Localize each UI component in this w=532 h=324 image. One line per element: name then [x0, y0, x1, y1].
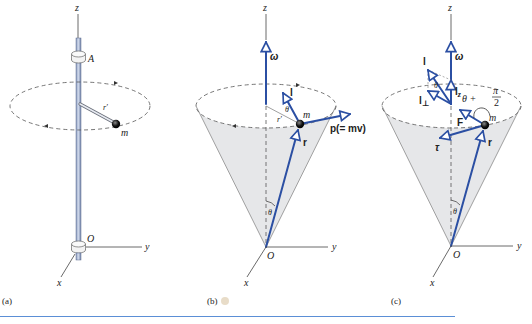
bearing-o — [72, 241, 86, 260]
z-axis-label: z — [447, 2, 452, 13]
panel-c: z ω lz l l⊥ θ F θ + π 2 m τ — [382, 2, 522, 306]
l-z-label: lz — [455, 86, 462, 99]
origin-label: O — [267, 250, 274, 261]
angle-theta-label: θ + — [462, 93, 476, 104]
radial-arm-highlight — [80, 104, 115, 123]
r-prime-label: r′ — [277, 115, 282, 124]
force-vector — [460, 110, 485, 125]
x-axis-label: x — [429, 277, 435, 288]
mass-label: m — [303, 109, 310, 120]
omega-label: ω — [270, 51, 279, 62]
bearing-a-label: A — [87, 53, 95, 64]
caption-a: (a) — [2, 296, 12, 306]
l-perp-label: l⊥ — [419, 95, 429, 108]
y-axis-label: y — [516, 240, 522, 251]
cone-surface — [382, 106, 521, 246]
orbit-direction-arrow — [114, 81, 118, 85]
y-axis-label: y — [144, 241, 150, 252]
x-axis — [61, 254, 75, 277]
mass-ball — [112, 120, 120, 128]
x-axis-label: x — [243, 277, 249, 288]
mass-label: m — [121, 127, 128, 138]
theta-label: θ — [434, 81, 438, 90]
l-label: l — [290, 87, 293, 98]
y-axis-label: y — [331, 241, 337, 252]
theta-label: θ — [285, 105, 289, 114]
angular-momentum-figure: z A r′ m O — [0, 0, 532, 324]
vertical-rod — [76, 60, 81, 244]
orbit-direction-arrow — [44, 124, 48, 128]
r-label: r — [303, 137, 307, 148]
x-axis — [433, 246, 451, 277]
x-axis — [247, 247, 266, 277]
bearing-a — [72, 51, 86, 63]
z-axis-label: z — [262, 2, 267, 13]
caption-c: (c) — [391, 296, 401, 306]
angle-pi-label: π — [493, 85, 499, 96]
origin-label: O — [87, 233, 94, 244]
caption-b: (b) — [207, 296, 218, 306]
origin-label: O — [453, 249, 460, 260]
angle-2-label: 2 — [494, 97, 499, 108]
force-label: F — [457, 117, 463, 128]
panel-b: z ω r′ l θ m p(= mv) r θ y x O (b) — [196, 2, 366, 306]
mass-ball — [481, 121, 489, 129]
x-axis-label: x — [56, 277, 62, 288]
l-label: l — [423, 56, 426, 67]
momentum-label: p(= mv) — [330, 123, 366, 134]
r-label: r — [488, 137, 492, 148]
orbit-direction-arrow — [296, 83, 300, 87]
angle-arc — [474, 108, 490, 118]
omega-label: ω — [455, 51, 464, 62]
theta-apex-label: θ — [268, 208, 272, 217]
mass-label: m — [489, 112, 496, 123]
highlight-dot — [221, 297, 229, 305]
theta-apex-label: θ — [453, 207, 457, 216]
mass-ball — [296, 120, 304, 128]
r-prime-label: r′ — [103, 103, 108, 112]
panel-a: z A r′ m O — [2, 2, 150, 306]
z-axis-label: z — [74, 2, 79, 13]
